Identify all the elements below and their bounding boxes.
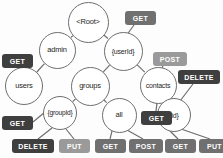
- badge-label: GET: [10, 58, 25, 65]
- diagram-canvas: <Root>admin{userId}usersgroupscontacts{g…: [0, 0, 223, 158]
- badge-delete-groupid[interactable]: DELETE: [12, 139, 54, 153]
- badge-label: POST: [160, 56, 180, 63]
- badge-label: GET: [133, 15, 148, 22]
- connector-get-all: [110, 131, 112, 139]
- node-users[interactable]: users: [5, 67, 43, 105]
- node-admin[interactable]: admin: [39, 32, 76, 69]
- node-root[interactable]: <Root>: [68, 2, 109, 43]
- badge-get-id[interactable]: GET: [165, 139, 196, 153]
- node-label: admin: [47, 46, 66, 54]
- edge-userid-to-groups: [103, 65, 109, 72]
- badge-label: DELETE: [18, 143, 47, 150]
- badge-get-contacts[interactable]: GET: [141, 111, 172, 125]
- badge-get-all[interactable]: GET: [95, 139, 126, 153]
- node-label: contacts: [146, 82, 170, 89]
- connector-get-id: [170, 131, 178, 139]
- badge-get-root[interactable]: GET: [125, 11, 156, 25]
- badge-label: PUT: [207, 143, 222, 150]
- node-label: <Root>: [76, 18, 99, 26]
- node-label: users: [15, 82, 32, 90]
- edge-admin-to-users: [37, 64, 45, 72]
- badge-label: PUT: [67, 143, 82, 150]
- badge-label: POST: [136, 143, 156, 150]
- node-groups[interactable]: groups: [71, 67, 110, 106]
- connector-delete-groupid: [38, 128, 52, 139]
- connector-put-id: [181, 129, 210, 139]
- node-label: {userId}: [112, 48, 135, 55]
- node-label: all: [116, 111, 123, 119]
- badge-get-groupid[interactable]: GET: [2, 116, 33, 130]
- badge-label: GET: [103, 143, 118, 150]
- connector-delete-id: [180, 84, 193, 101]
- badge-put-id[interactable]: PUT: [199, 139, 223, 153]
- badge-label: GET: [10, 120, 25, 127]
- node-label: {groupId}: [48, 110, 73, 117]
- badge-label: DELETE: [184, 74, 213, 81]
- badge-put-groupid[interactable]: PUT: [59, 139, 90, 153]
- edge-userid-to-contacts: [137, 65, 145, 73]
- badge-label: GET: [149, 115, 164, 122]
- badge-get-admin[interactable]: GET: [2, 54, 33, 68]
- node-userid[interactable]: {userId}: [104, 32, 143, 71]
- badge-post-all[interactable]: POST: [129, 139, 163, 153]
- node-all[interactable]: all: [102, 98, 137, 133]
- node-groupid[interactable]: {groupId}: [43, 96, 77, 130]
- badge-delete-id[interactable]: DELETE: [178, 70, 220, 84]
- connector-put-groupid: [66, 129, 74, 139]
- badge-label: GET: [173, 143, 188, 150]
- badge-post-contacts[interactable]: POST: [153, 52, 187, 66]
- edge-root-to-userid: [104, 35, 108, 38]
- connector-post-all: [127, 130, 143, 139]
- node-label: groups: [79, 82, 101, 90]
